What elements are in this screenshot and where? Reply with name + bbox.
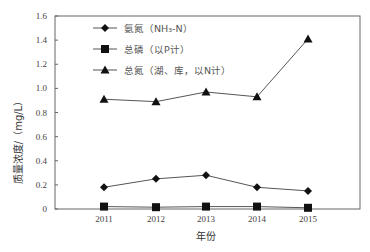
series-group xyxy=(100,34,313,211)
square-marker xyxy=(304,204,312,212)
diamond-marker xyxy=(101,24,109,32)
y-tick-label: 0.4 xyxy=(36,156,48,166)
diamond-marker xyxy=(253,183,261,191)
legend-label: 氨氮（NH₃-N） xyxy=(124,23,193,34)
legend-item: 氨氮（NH₃-N） xyxy=(93,23,193,34)
legend-label: 总氮（湖、库，以N计） xyxy=(124,65,231,76)
square-marker xyxy=(202,203,210,211)
legend-label: 总磷（以P计） xyxy=(124,44,190,55)
x-axis-title: 年份 xyxy=(196,230,216,242)
square-marker xyxy=(152,203,160,211)
y-tick-label: 1.4 xyxy=(36,35,48,45)
line-chart: 00.20.40.60.81.01.21.41.6 20112012201320… xyxy=(0,0,370,252)
square-marker xyxy=(100,203,108,211)
x-tick-label: 2011 xyxy=(95,214,113,224)
x-tick-label: 2012 xyxy=(147,214,165,224)
diamond-marker xyxy=(100,183,108,191)
triangle-marker xyxy=(202,87,211,95)
y-tick-label: 0.6 xyxy=(36,132,48,142)
legend: 氨氮（NH₃-N）总磷（以P计）总氮（湖、库，以N计） xyxy=(93,23,231,76)
y-tick-label: 1.2 xyxy=(36,59,47,69)
diamond-marker xyxy=(152,175,160,183)
triangle-marker xyxy=(100,95,109,103)
triangle-marker xyxy=(304,34,313,42)
y-tick-label: 0.2 xyxy=(36,180,47,190)
diamond-marker xyxy=(202,171,210,179)
x-tick-label: 2013 xyxy=(197,214,216,224)
legend-item: 总氮（湖、库，以N计） xyxy=(93,65,231,76)
square-marker xyxy=(253,203,261,211)
y-tick-label: 0 xyxy=(43,204,48,214)
square-marker xyxy=(101,45,109,53)
y-tick-label: 1.6 xyxy=(36,11,48,21)
legend-item: 总磷（以P计） xyxy=(93,44,190,55)
plot-border xyxy=(55,16,360,209)
x-tick-label: 2014 xyxy=(248,214,267,224)
series-square xyxy=(100,203,312,212)
y-tick-label: 0.8 xyxy=(36,108,48,118)
y-axis-title: 质量浓度/（mg/L） xyxy=(12,96,24,184)
series-diamond xyxy=(100,171,312,195)
plot-frame xyxy=(55,16,360,209)
diamond-marker xyxy=(304,187,312,195)
x-tick-label: 2015 xyxy=(299,214,318,224)
y-tick-label: 1.0 xyxy=(36,83,48,93)
